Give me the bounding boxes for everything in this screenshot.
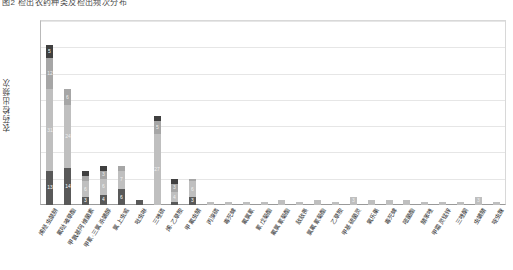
bar-stack[interactable]: 3	[475, 197, 482, 205]
x-tick-label: 腈苯唑	[418, 206, 436, 227]
bar-value-label: 24	[65, 134, 70, 139]
bar-segment: 6	[82, 181, 89, 197]
x-tick-label: 吡虫啉	[132, 206, 150, 227]
chart-container: 图2 检出农药种类及检出频次分布 农药检出频次 010203040506070 …	[0, 0, 513, 270]
bar-segment	[493, 202, 500, 205]
bar-stack[interactable]: 36	[82, 171, 89, 205]
bar-stack[interactable]	[207, 202, 214, 205]
bar-stack[interactable]	[332, 202, 339, 205]
bar-stack[interactable]: 43	[171, 179, 178, 205]
x-tick-label: 三唑酮	[453, 206, 471, 227]
bar-stack[interactable]	[296, 202, 303, 205]
bar-segment: 6	[118, 189, 125, 205]
bar-value-label: 3	[191, 199, 194, 204]
bar-segment: 5	[154, 121, 161, 134]
bar-segment: 5	[46, 45, 53, 58]
bar-segment	[225, 202, 232, 205]
bar-stack[interactable]: 275	[154, 116, 161, 205]
bar-stack[interactable]: 3	[350, 197, 357, 205]
bar-segment: 4	[171, 192, 178, 203]
bar-stack[interactable]	[493, 202, 500, 205]
bar-segment: 6	[189, 181, 196, 197]
x-tick-label: 啶虫脒	[489, 206, 507, 227]
bar-segment: 6	[100, 179, 107, 195]
bar-value-label: 4	[102, 197, 105, 202]
x-tick-label: 丙溴磷	[203, 206, 221, 227]
bar-stack[interactable]	[314, 200, 321, 205]
bar-segment	[278, 200, 285, 205]
bar-segment	[189, 179, 196, 182]
bar-value-label: 12	[47, 71, 52, 76]
bar-segment	[243, 202, 250, 205]
bar-segment: 3	[350, 197, 357, 205]
bar-stack[interactable]	[278, 200, 285, 205]
bar-segment: 13	[46, 171, 53, 205]
bar-series-group: 1331125142463646367275433633	[41, 21, 505, 205]
bar-segment: 27	[154, 134, 161, 205]
bar-stack[interactable]	[421, 202, 428, 205]
bar-segment: 12	[46, 58, 53, 90]
bar-segment	[136, 200, 143, 205]
bar-segment: 24	[64, 105, 71, 168]
bar-stack[interactable]: 67	[118, 166, 125, 205]
bar-segment: 3	[189, 197, 196, 205]
bar-segment: 4	[100, 195, 107, 206]
chart-title: 图2 检出农药种类及检出频次分布	[2, 0, 127, 7]
bar-value-label: 6	[102, 184, 105, 189]
bar-value-label: 7	[120, 178, 123, 183]
bar-segment: 6	[64, 89, 71, 105]
bar-segment	[368, 200, 375, 205]
bar-stack[interactable]	[386, 200, 393, 205]
bar-stack[interactable]	[261, 202, 268, 205]
chart-title-strip: 图2 检出农药种类及检出频次分布	[0, 0, 513, 9]
bar-stack[interactable]: 36	[189, 179, 196, 205]
bar-segment	[171, 179, 178, 184]
bar-value-label: 13	[47, 185, 52, 190]
x-tick-label: 嘧菌酯	[400, 206, 418, 227]
bar-segment	[403, 200, 410, 205]
bar-stack[interactable]	[225, 202, 232, 205]
bar-segment	[82, 176, 89, 181]
bar-stack[interactable]	[136, 200, 143, 205]
bar-segment: 3	[171, 184, 178, 192]
bar-stack[interactable]	[243, 202, 250, 205]
x-tick-label: 虫螨腈	[471, 206, 489, 227]
bar-segment	[296, 202, 303, 205]
x-tick-label: 毒死蜱	[221, 206, 239, 227]
bar-value-label: 27	[154, 167, 159, 172]
bar-segment: 3	[82, 197, 89, 205]
bar-stack[interactable]	[439, 202, 446, 205]
bar-value-label: 3	[173, 185, 176, 190]
bar-value-label: 6	[66, 95, 69, 100]
bar-value-label: 31	[47, 128, 52, 133]
bar-value-label: 3	[102, 172, 105, 177]
x-tick-label: 氧乐果	[364, 206, 382, 227]
bar-segment	[457, 202, 464, 205]
bar-segment: 31	[46, 89, 53, 170]
bar-stack[interactable]: 14246	[64, 89, 71, 205]
bar-value-label: 5	[156, 125, 159, 130]
bar-segment	[332, 202, 339, 205]
bar-stack[interactable]	[368, 200, 375, 205]
bar-segment	[100, 166, 107, 171]
x-tick-label: 三唑磷	[150, 206, 168, 227]
bar-stack[interactable]	[457, 202, 464, 205]
bar-stack[interactable]	[403, 200, 410, 205]
bar-segment	[314, 200, 321, 205]
bar-stack[interactable]: 463	[100, 166, 107, 205]
bar-segment: 14	[64, 168, 71, 205]
bar-segment	[386, 200, 393, 205]
bar-value-label: 6	[120, 195, 123, 200]
bar-segment	[421, 202, 428, 205]
bar-stack[interactable]: 1331125	[46, 45, 53, 205]
bar-segment	[82, 171, 89, 176]
bar-value-label: 3	[352, 199, 355, 204]
bar-segment: 3	[100, 171, 107, 179]
bar-value-label: 6	[191, 187, 194, 192]
bar-value-label: 14	[65, 184, 70, 189]
y-axis-label: 农药检出频次	[1, 78, 13, 132]
bar-value-label: 5	[49, 49, 52, 54]
bar-segment	[261, 202, 268, 205]
bar-value-label: 4	[173, 195, 176, 200]
bar-segment: 7	[118, 171, 125, 189]
